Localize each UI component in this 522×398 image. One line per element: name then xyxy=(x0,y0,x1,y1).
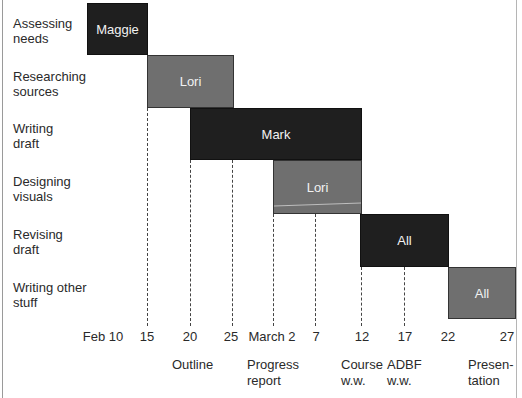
milestone-progress-report: Progress report xyxy=(247,357,299,389)
milestone-line: Course xyxy=(341,357,383,373)
bar-assessing-needs: Maggie xyxy=(87,3,148,55)
task-label-line: stuff xyxy=(13,295,103,310)
x-tick-7: 7 xyxy=(312,329,319,344)
milestone-presentation: Presen- tation xyxy=(468,357,514,389)
task-label-designing-visuals: Designing visuals xyxy=(13,174,85,204)
bar-assignee-label: All xyxy=(397,233,411,248)
milestone-line: tation xyxy=(468,373,514,389)
milestone-adbf-ww: ADBF w.w. xyxy=(387,357,422,389)
dashed-guide-mar2 xyxy=(273,214,274,326)
milestone-line: Outline xyxy=(172,357,213,373)
dashed-guide-feb20 xyxy=(190,160,191,326)
dashed-guide-mar12 xyxy=(361,267,362,326)
right-border xyxy=(516,0,517,398)
task-label-line: Designing xyxy=(13,174,85,189)
bar-designing-visuals: Lori xyxy=(273,160,362,214)
bar-assignee-label: Maggie xyxy=(96,22,139,37)
task-label-writing-draft: Writing draft xyxy=(13,121,85,151)
task-label-line: Researching xyxy=(13,69,85,84)
task-label-assessing-needs: Assessing needs xyxy=(13,16,85,46)
bar-writing-draft: Mark xyxy=(190,108,362,160)
task-label-line: Revising xyxy=(13,227,85,242)
dashed-guide-mar7 xyxy=(315,214,316,326)
x-tick-22: 22 xyxy=(441,329,455,344)
dashed-guide-feb15 xyxy=(147,108,148,326)
scan-streak xyxy=(274,202,361,206)
x-tick-20: 20 xyxy=(183,329,197,344)
x-tick-25: 25 xyxy=(224,329,238,344)
milestone-course-ww: Course w.w. xyxy=(341,357,383,389)
bar-assignee-label: Lori xyxy=(180,74,202,89)
dashed-guide-mar17 xyxy=(404,267,405,326)
task-label-line: Writing other xyxy=(13,280,103,295)
dashed-guide-feb25 xyxy=(232,160,233,326)
milestone-line: Progress xyxy=(247,357,299,373)
task-label-researching-sources: Researching sources xyxy=(13,69,85,99)
x-tick-feb10: Feb 10 xyxy=(83,329,123,344)
milestone-line: w.w. xyxy=(341,373,383,389)
milestone-line: Presen- xyxy=(468,357,514,373)
task-label-line: visuals xyxy=(13,189,85,204)
x-tick-15: 15 xyxy=(140,329,154,344)
task-label-line: Assessing xyxy=(13,16,85,31)
x-tick-17: 17 xyxy=(398,329,412,344)
milestone-line: report xyxy=(247,373,299,389)
bar-assignee-label: Mark xyxy=(262,127,291,142)
task-label-line: needs xyxy=(13,31,85,46)
bar-assignee-label: All xyxy=(475,286,489,301)
task-label-line: sources xyxy=(13,84,85,99)
task-label-writing-other-stuff: Writing other stuff xyxy=(13,280,103,310)
bar-assignee-label: Lori xyxy=(307,180,329,195)
x-tick-march2: March 2 xyxy=(249,329,296,344)
task-label-line: draft xyxy=(13,242,85,257)
milestone-outline: Outline xyxy=(172,357,213,373)
milestone-line: w.w. xyxy=(387,373,422,389)
x-tick-12: 12 xyxy=(355,329,369,344)
task-label-revising-draft: Revising draft xyxy=(13,227,85,257)
left-border xyxy=(2,0,3,398)
milestone-line: ADBF xyxy=(387,357,422,373)
bar-researching-sources: Lori xyxy=(147,55,234,108)
bar-writing-other-stuff: All xyxy=(448,267,516,319)
x-tick-27: 27 xyxy=(500,329,514,344)
task-label-line: Writing xyxy=(13,121,85,136)
task-label-line: draft xyxy=(13,136,85,151)
bar-revising-draft: All xyxy=(360,214,449,267)
